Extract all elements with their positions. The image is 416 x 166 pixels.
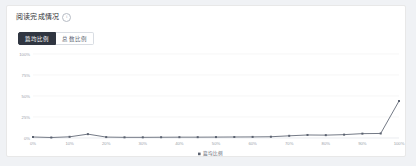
x-axis-tick-label: 60% (248, 141, 257, 146)
data-point[interactable] (361, 133, 363, 135)
chart-canvas: 0%25%50%75%100%0%10%20%30%40%50%60%70%80… (7, 48, 407, 158)
tab-total-ratio[interactable]: 总数比例 (56, 32, 93, 45)
y-axis-tick-label: 75% (22, 73, 31, 78)
data-point[interactable] (343, 134, 345, 136)
card-header: 阅读完成情况 i (16, 12, 71, 22)
data-point[interactable] (32, 136, 34, 138)
data-point[interactable] (50, 136, 52, 138)
data-point[interactable] (87, 133, 89, 135)
legend-marker (198, 153, 201, 156)
data-point[interactable] (398, 100, 400, 102)
data-point[interactable] (197, 136, 199, 138)
data-point[interactable] (252, 136, 254, 138)
x-axis-tick-label: 100% (394, 141, 405, 146)
x-axis-tick-label: 10% (65, 141, 74, 146)
chart-mode-tabs[interactable]: 篇均比例 总数比例 (18, 32, 94, 45)
x-axis-tick-label: 90% (358, 141, 367, 146)
data-point[interactable] (142, 136, 144, 138)
data-point[interactable] (178, 136, 180, 138)
x-axis-tick-label: 30% (139, 141, 148, 146)
x-axis-tick-label: 70% (285, 141, 294, 146)
data-point[interactable] (215, 136, 217, 138)
page-title: 阅读完成情况 (16, 12, 59, 22)
data-point[interactable] (69, 136, 71, 138)
x-axis-tick-label: 0% (30, 141, 36, 146)
data-point[interactable] (307, 134, 309, 136)
data-point[interactable] (105, 136, 107, 138)
x-axis-tick-label: 80% (322, 141, 331, 146)
data-point[interactable] (233, 136, 235, 138)
data-point[interactable] (124, 136, 126, 138)
x-axis-tick-label: 50% (212, 141, 221, 146)
info-circle-icon[interactable]: i (62, 13, 71, 22)
y-axis-tick-label: 50% (22, 94, 31, 99)
x-axis-tick-label: 40% (175, 141, 184, 146)
y-axis-tick-label: 25% (22, 115, 31, 120)
y-axis-tick-label: 0% (24, 136, 30, 141)
y-axis-tick-label: 100% (19, 52, 30, 57)
data-point[interactable] (288, 135, 290, 137)
data-point[interactable] (160, 136, 162, 138)
x-axis-tick-label: 20% (102, 141, 111, 146)
reading-completion-line-chart: 0%25%50%75%100%0%10%20%30%40%50%60%70%80… (7, 48, 407, 158)
data-point[interactable] (380, 132, 382, 134)
legend-label[interactable]: 篇均比例 (203, 150, 223, 157)
data-point[interactable] (270, 136, 272, 138)
data-point[interactable] (325, 134, 327, 136)
reading-completion-card: 阅读完成情况 i 篇均比例 总数比例 0%25%50%75%100%0%10%2… (6, 5, 406, 157)
tab-average-ratio[interactable]: 篇均比例 (18, 32, 56, 45)
series-line-0 (33, 101, 399, 137)
